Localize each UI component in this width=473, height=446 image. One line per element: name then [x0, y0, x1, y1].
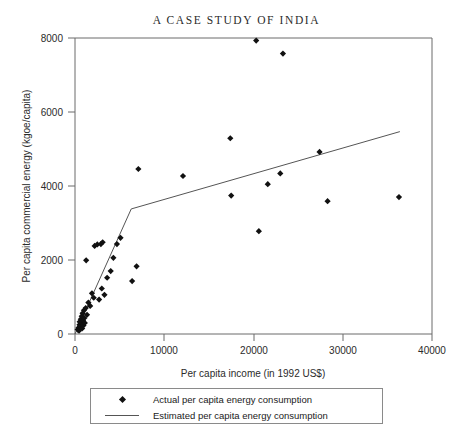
- chart-figure: A CASE STUDY OF INDIA 0 2000 4000 6000 8…: [0, 0, 473, 446]
- data-point: [83, 257, 89, 263]
- y-tick-label-6000: 6000: [41, 107, 64, 118]
- data-point: [277, 170, 283, 176]
- x-tick-label-10000: 10000: [150, 345, 178, 356]
- data-point: [280, 50, 286, 56]
- data-point: [133, 263, 139, 269]
- estimated-line-series: [75, 132, 400, 334]
- x-axis-title: Per capita income (in 1992 US$): [181, 368, 326, 379]
- y-tick-label-4000: 4000: [41, 181, 64, 192]
- y-axis-title: Per capita commercial energy (kgoe/capit…: [21, 90, 32, 283]
- data-point: [180, 173, 186, 179]
- x-axis-ticks: [75, 334, 432, 341]
- legend: Actual per capita energy consumption Est…: [90, 388, 383, 424]
- data-point: [135, 166, 141, 172]
- line-segment-icon: [91, 415, 153, 416]
- x-axis-tick-labels: 0 10000 20000 30000 40000: [72, 345, 446, 356]
- data-point: [129, 278, 135, 284]
- y-axis-tick-labels: 0 2000 4000 6000 8000: [41, 33, 64, 340]
- data-point: [108, 268, 114, 274]
- data-point: [227, 135, 233, 141]
- data-point: [265, 181, 271, 187]
- y-axis-ticks: [68, 38, 75, 334]
- data-point: [117, 235, 123, 241]
- axis-lines: [75, 38, 432, 334]
- legend-item-estimated: Estimated per capita energy consumption: [91, 407, 382, 423]
- x-tick-label-40000: 40000: [418, 345, 446, 356]
- y-tick-label-2000: 2000: [41, 255, 64, 266]
- plot-area: 0 2000 4000 6000 8000 0 10000 20000 3000…: [0, 0, 473, 386]
- y-tick-label-0: 0: [57, 329, 63, 340]
- legend-label-actual: Actual per capita energy consumption: [153, 394, 312, 405]
- x-tick-label-0: 0: [72, 345, 78, 356]
- diamond-marker-icon: [91, 397, 153, 402]
- data-point: [99, 285, 105, 291]
- data-point: [256, 228, 262, 234]
- actual-scatter-series: [75, 37, 403, 333]
- x-tick-label-30000: 30000: [329, 345, 357, 356]
- data-point: [104, 275, 110, 281]
- legend-item-actual: Actual per capita energy consumption: [91, 391, 382, 407]
- data-point: [101, 292, 107, 298]
- data-point: [228, 193, 234, 199]
- data-point: [396, 194, 402, 200]
- y-tick-label-8000: 8000: [41, 33, 64, 44]
- data-point: [110, 255, 116, 261]
- x-tick-label-20000: 20000: [240, 345, 268, 356]
- legend-label-estimated: Estimated per capita energy consumption: [153, 410, 328, 421]
- data-point: [324, 198, 330, 204]
- data-point: [96, 296, 102, 302]
